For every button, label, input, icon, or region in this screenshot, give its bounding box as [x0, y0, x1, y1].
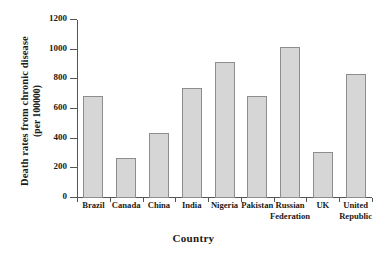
- y-axis-tick: 1200: [70, 19, 77, 20]
- x-axis-category-label-line: Brazil: [82, 200, 104, 210]
- x-axis-category-label: UnitedRepublic: [333, 200, 378, 221]
- bar: [346, 74, 366, 198]
- x-axis-category-label-line: Republic: [333, 211, 378, 222]
- y-axis-title-line2: (per 100000): [31, 85, 44, 137]
- x-axis-category-label-line: United: [343, 200, 368, 210]
- y-axis-tick: 400: [70, 138, 77, 139]
- y-axis-tick: 1000: [70, 49, 77, 50]
- y-axis-tick-label: 200: [54, 160, 68, 173]
- x-axis-category-label-line: UK: [316, 200, 329, 210]
- bar: [116, 158, 136, 198]
- x-axis-category-label-line: China: [148, 200, 170, 210]
- y-axis-tick-label: 400: [54, 131, 68, 144]
- y-axis-tick: 0: [70, 197, 77, 198]
- y-axis-title: Death rates from chronic disease (per 10…: [15, 16, 47, 206]
- plot-area: 020040060080010001200: [77, 20, 372, 198]
- bar: [149, 133, 169, 198]
- bar: [280, 47, 300, 198]
- y-axis-tick-label: 600: [54, 101, 68, 114]
- x-axis-category-label-line: India: [182, 200, 202, 210]
- y-axis-tick: 200: [70, 167, 77, 168]
- bar: [313, 152, 333, 198]
- bar: [182, 88, 202, 198]
- bars-layer: [77, 20, 372, 198]
- bar: [83, 96, 103, 198]
- y-axis-tick-label: 0: [63, 190, 68, 203]
- x-axis-category-labels: BrazilCanadaChinaIndiaNigeriaPakistanRus…: [77, 200, 377, 230]
- y-axis-tick: 600: [70, 108, 77, 109]
- bar-chart-figure: Death rates from chronic disease (per 10…: [0, 0, 387, 255]
- y-axis-tick: 800: [70, 78, 77, 79]
- y-axis-tick-label: 800: [54, 71, 68, 84]
- x-axis-category-label-line: Federation: [268, 211, 313, 222]
- y-axis-title-line1: Death rates from chronic disease: [18, 36, 31, 186]
- x-axis-title: Country: [0, 232, 387, 244]
- bar: [215, 62, 235, 198]
- y-axis-tick-label: 1200: [49, 12, 67, 25]
- y-axis-tick-label: 1000: [49, 42, 67, 55]
- bar: [247, 96, 267, 198]
